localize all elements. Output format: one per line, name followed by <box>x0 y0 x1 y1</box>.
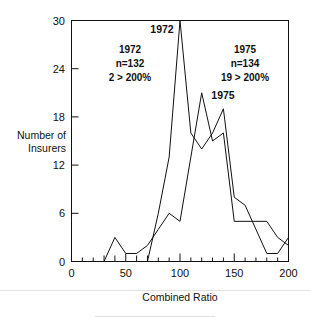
annotation-1975-over200: 19 > 200% <box>221 72 269 83</box>
annotation-1972-over200: 2 > 200% <box>109 72 152 83</box>
annotation-1975-year: 1975 <box>234 44 257 55</box>
y-axis-title: Number of Insurers <box>17 129 66 154</box>
series-line-1975 <box>104 93 288 262</box>
y-tick-label-6: 6 <box>59 207 65 219</box>
y-tick-label-0: 0 <box>59 256 65 268</box>
x-tick-label-100: 100 <box>171 267 189 279</box>
y-tick-label-18: 18 <box>53 111 65 123</box>
annotation-1972-count: n=132 <box>116 58 145 69</box>
x-axis-title: Combined Ratio <box>142 291 217 303</box>
y-tick-label-24: 24 <box>53 63 65 75</box>
x-tick-label-150: 150 <box>225 267 243 279</box>
y-axis-tick-labels: 0 6 12 18 24 30 <box>53 15 65 268</box>
x-tick-label-200: 200 <box>279 267 297 279</box>
x-tick-label-0: 0 <box>68 267 74 279</box>
annotation-1975: 1975 n=134 19 > 200% <box>221 44 269 83</box>
y-axis-title-line1: Number of <box>17 129 66 141</box>
series-group <box>104 21 288 262</box>
curve-label-1975: 1975 <box>211 89 235 101</box>
curve-label-1972: 1972 <box>150 23 174 35</box>
plot-frame <box>72 21 289 262</box>
y-axis-title-line2: Insurers <box>28 142 66 154</box>
x-axis-tick-labels: 0 50 100 150 200 <box>68 267 297 279</box>
y-tick-label-30: 30 <box>53 15 65 27</box>
y-tick-label-12: 12 <box>53 159 65 171</box>
y-axis-ticks <box>72 21 79 262</box>
chart-figure: 0 6 12 18 24 30 Number of Insurers <box>0 0 311 322</box>
annotation-1972-year: 1972 <box>119 44 142 55</box>
annotation-1972: 1972 n=132 2 > 200% <box>109 44 152 83</box>
series-line-1972 <box>147 21 288 262</box>
x-tick-label-50: 50 <box>120 267 132 279</box>
combined-ratio-line-chart: 0 6 12 18 24 30 Number of Insurers <box>0 0 311 322</box>
annotation-1975-count: n=134 <box>231 58 260 69</box>
